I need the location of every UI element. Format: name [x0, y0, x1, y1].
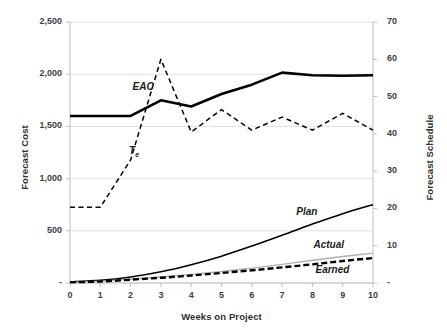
series-line-te — [70, 59, 373, 207]
series-label-actual: Actual — [313, 239, 344, 250]
series-label-earned: Earned — [315, 264, 349, 275]
series-label-eac: EAC — [133, 81, 154, 92]
series-label-te: Te — [129, 145, 139, 158]
plot-area — [0, 0, 447, 336]
forecast-chart: Forecast Cost Forecast Schedule Weeks on… — [0, 0, 447, 336]
series-label-plan: Plan — [296, 206, 317, 217]
